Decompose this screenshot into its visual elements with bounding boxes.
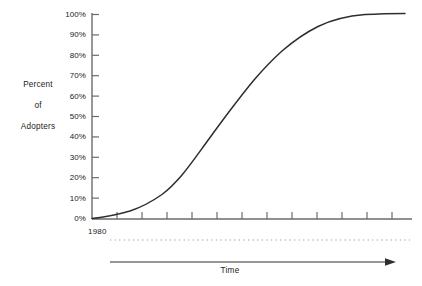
y-tick-label-50: 50% bbox=[22, 112, 86, 121]
x-axis-ticks bbox=[117, 212, 392, 219]
y-tick-label-40: 40% bbox=[22, 132, 86, 141]
y-tick-label-90: 90% bbox=[22, 30, 86, 39]
x-axis-start-year-label: 1980 bbox=[88, 227, 107, 236]
y-tick-label-0: 0% bbox=[22, 214, 86, 223]
adoption-s-curve bbox=[92, 13, 405, 218]
x-axis-title: Time bbox=[190, 266, 270, 275]
y-tick-label-70: 70% bbox=[22, 71, 86, 80]
y-axis-ticks bbox=[92, 15, 99, 219]
time-arrow bbox=[110, 258, 396, 266]
y-axis-tick-labels: 100% 90% 80% 70% 60% 50% 40% 30% 20% 10%… bbox=[22, 0, 86, 286]
y-tick-label-20: 20% bbox=[22, 173, 86, 182]
y-tick-label-30: 30% bbox=[22, 153, 86, 162]
y-tick-label-10: 10% bbox=[22, 194, 86, 203]
y-tick-label-80: 80% bbox=[22, 51, 86, 60]
chart-container: Percent of Adopters 100% 90% 80% 70% 60%… bbox=[0, 0, 422, 286]
y-tick-label-60: 60% bbox=[22, 92, 86, 101]
y-tick-label-100: 100% bbox=[22, 10, 86, 19]
